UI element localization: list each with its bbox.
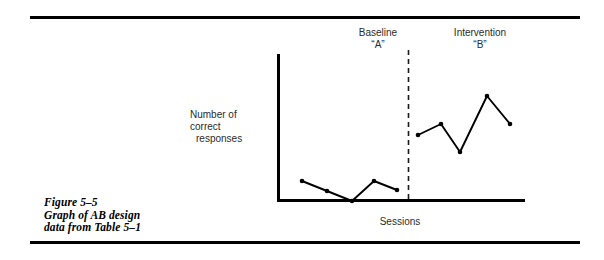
y-axis-title: Number of correct responses	[190, 109, 270, 145]
figure-frame: Figure 5–5 Graph of AB design data from …	[0, 0, 604, 260]
x-axis-title: Sessions	[340, 216, 460, 228]
baseline-data-line	[302, 181, 397, 201]
data-point	[458, 150, 463, 155]
data-point	[372, 179, 377, 184]
phase-label-intervention-letter: “B”	[420, 39, 540, 51]
data-point	[416, 133, 421, 138]
y-axis-title-line-1: Number of	[190, 109, 270, 121]
phase-label-intervention-name: Intervention	[420, 27, 540, 39]
data-point	[439, 122, 444, 127]
intervention-data-line	[418, 96, 510, 152]
phase-label-intervention: Intervention “B”	[420, 27, 540, 51]
data-point	[325, 189, 330, 194]
data-point	[508, 122, 513, 127]
data-point	[350, 199, 355, 204]
data-point	[395, 188, 400, 193]
y-axis-title-line-3: responses	[190, 133, 270, 145]
y-axis-title-line-2: correct	[190, 121, 270, 133]
data-point	[300, 179, 305, 184]
data-point	[485, 94, 490, 99]
